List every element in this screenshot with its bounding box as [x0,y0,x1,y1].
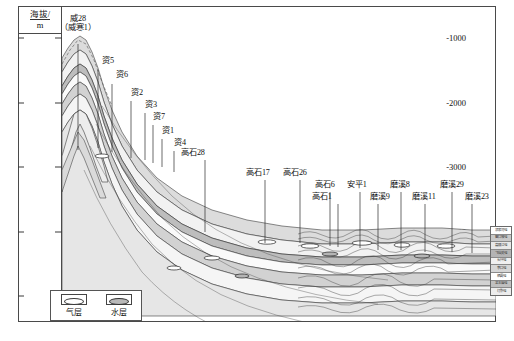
legend-item-gas: 气层 [61,294,87,317]
well-label[interactable]: 高石6 [315,180,335,189]
well-label[interactable]: 磨溪23 [465,192,488,201]
well-label[interactable]: 高石17 [246,168,269,177]
strat-key-cell: 栖霞组 [491,273,511,281]
well-label[interactable]: 磨溪11 [412,192,435,201]
well-label[interactable]: 磨溪8 [390,180,410,189]
strat-key-cell: 龙王庙组 [491,281,511,289]
strat-key-cell: 飞仙关组 [491,250,511,258]
well-label[interactable]: 磨溪29 [440,180,463,189]
strat-key-cell: 雷口坡组 [491,235,511,243]
well-label[interactable]: 高石28 [181,148,204,157]
axis-tick-mark [55,102,62,103]
well-label[interactable]: 磨溪9 [370,192,390,201]
strat-key-cell: 须家河组 [491,227,511,235]
axis-tick-mark-outer [18,167,24,168]
strat-key-cell: 茅口组 [491,265,511,273]
axis-tick-mark-outer [18,296,24,297]
well-label[interactable]: 威28（威寒1） [60,14,95,32]
stratigraphic-key-column: 须家河组雷口坡组嘉陵江组飞仙关组长兴组茅口组栖霞组龙王庙组灯影组 [490,226,512,296]
water-layer-icon [106,294,132,305]
geological-cross-section-figure: 海拔/ m -1000-2000-3000-4000-5000 [0,0,514,341]
well-label[interactable]: 资2 [131,88,143,97]
well-label[interactable]: 安平1 [347,180,367,189]
strat-key-cell: 长兴组 [491,258,511,266]
axis-tick-mark-outer [18,231,24,232]
well-label[interactable]: 资4 [174,138,186,147]
legend: 气层 水层 [50,290,142,321]
well-label[interactable]: 资7 [153,112,165,121]
gas-layer-icon [61,294,87,305]
legend-item-water: 水层 [106,294,132,317]
well-label[interactable]: 高石1 [312,192,332,201]
well-label-alias: （威寒1） [60,23,95,32]
strat-key-cell: 灯影组 [491,288,511,295]
well-label[interactable]: 资3 [145,100,157,109]
well-label-name: 威28 [60,14,95,23]
axis-tick-mark-outer [18,38,24,39]
well-label[interactable]: 资1 [162,126,174,135]
legend-label-water: 水层 [111,306,127,317]
well-label[interactable]: 资6 [116,70,128,79]
well-label[interactable]: 高石26 [283,168,306,177]
axis-tick-mark [55,167,62,168]
cross-section-plot [62,6,496,322]
strat-key-cell: 嘉陵江组 [491,242,511,250]
axis-column [18,6,62,322]
axis-tick-mark [55,231,62,232]
legend-label-gas: 气层 [66,306,82,317]
axis-tick-mark-outer [18,102,24,103]
well-label[interactable]: 资5 [102,56,114,65]
axis-tick-mark [55,38,62,39]
